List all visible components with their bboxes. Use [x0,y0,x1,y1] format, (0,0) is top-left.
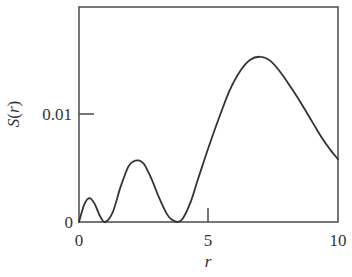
svg-text:S(r): S(r) [4,101,23,127]
y-tick-label-0.01: 0.01 [42,105,72,124]
y-axis-label: S(r) [4,101,23,127]
chart: 0 0.01 0 5 10 r S(r) [0,0,352,277]
x-tick-label-5: 5 [204,231,213,250]
x-tick-label-0: 0 [75,231,84,250]
y-tick-label-0: 0 [65,213,74,232]
x-tick-label-10: 10 [330,231,347,250]
data-line-S-of-r [79,57,338,222]
y-axis-label-close: ) [4,101,23,107]
plot-frame [79,7,338,222]
x-axis-label: r [205,252,212,271]
